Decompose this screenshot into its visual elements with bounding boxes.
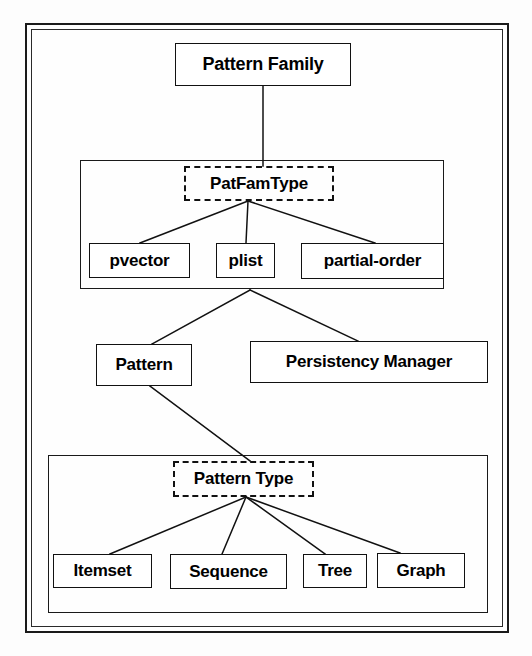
diagram-canvas: Pattern Family PatFamType pvector plist … <box>0 0 532 656</box>
node-tree[interactable]: Tree <box>303 554 367 588</box>
node-patfamtype[interactable]: PatFamType <box>184 166 334 201</box>
node-sequence[interactable]: Sequence <box>170 554 287 589</box>
node-pattern[interactable]: Pattern <box>96 344 192 386</box>
node-pattern-family[interactable]: Pattern Family <box>175 43 351 86</box>
node-partial-order[interactable]: partial-order <box>301 243 444 279</box>
node-pattern-type[interactable]: Pattern Type <box>173 461 314 497</box>
node-pvector[interactable]: pvector <box>89 243 190 278</box>
node-persistency-manager[interactable]: Persistency Manager <box>250 341 488 383</box>
node-itemset[interactable]: Itemset <box>53 554 152 588</box>
node-graph[interactable]: Graph <box>377 553 465 588</box>
node-plist[interactable]: plist <box>216 243 275 278</box>
